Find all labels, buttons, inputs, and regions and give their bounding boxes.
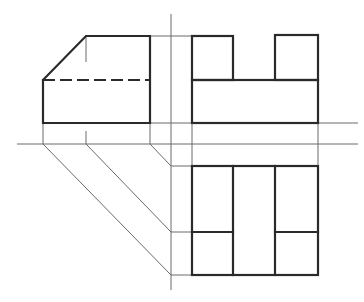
transfer-line xyxy=(150,144,171,166)
transfer-lines xyxy=(43,144,192,275)
side-view-left-tab xyxy=(192,36,233,80)
side-view-right-tab xyxy=(275,35,318,80)
transfer-line xyxy=(43,144,171,275)
side-view xyxy=(192,35,318,123)
projection-drawing xyxy=(0,0,364,302)
side-view-base-block xyxy=(192,80,318,123)
top-view-outline xyxy=(192,166,318,275)
transfer-line xyxy=(86,144,171,232)
front-view xyxy=(43,36,150,123)
top-view xyxy=(192,166,318,275)
front-view-projection-lines xyxy=(43,36,358,144)
